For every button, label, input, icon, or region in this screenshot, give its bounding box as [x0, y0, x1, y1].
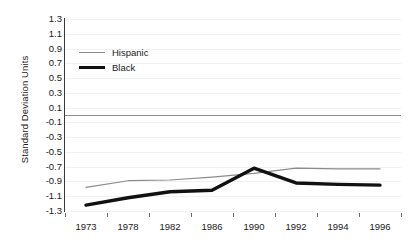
y-tick-label: -0.7 — [22, 162, 62, 172]
x-tick-mark — [359, 213, 360, 217]
x-tick-label: 1994 — [327, 221, 348, 232]
y-tick-label: 0.1 — [22, 103, 62, 113]
y-tick-label: -0.9 — [22, 176, 62, 186]
x-tick-mark — [107, 213, 108, 217]
x-tick-label: 1992 — [285, 221, 306, 232]
gridline — [65, 211, 401, 212]
legend-swatch-hispanic-icon — [79, 52, 105, 53]
legend-swatch-black-icon — [79, 66, 105, 69]
y-tick-label: 0.9 — [22, 44, 62, 54]
x-tick-label: 1986 — [201, 221, 222, 232]
series-line-black — [86, 168, 380, 205]
x-tick-label: 1982 — [159, 221, 180, 232]
y-tick-label: -1.3 — [22, 206, 62, 216]
y-tick-label: -0.3 — [22, 132, 62, 142]
x-tick-mark — [191, 213, 192, 217]
legend-label-black: Black — [112, 62, 135, 73]
y-tick-label: 0.5 — [22, 73, 62, 83]
y-tick-label: -0.5 — [22, 147, 62, 157]
x-axis-tick-labels: 19731978198219861990199219941996 — [0, 221, 409, 243]
x-tick-label: 1996 — [369, 221, 390, 232]
y-tick-label: 1.3 — [22, 14, 62, 24]
x-axis-ticks — [65, 213, 401, 219]
line-chart: Standard Deviation Units 1.31.10.90.70.5… — [0, 0, 409, 250]
y-tick-label: 1.1 — [22, 29, 62, 39]
x-tick-label: 1973 — [75, 221, 96, 232]
y-tick-label: 0.3 — [22, 88, 62, 98]
x-tick-label: 1978 — [117, 221, 138, 232]
y-tick-label: -0.1 — [22, 117, 62, 127]
legend-item-black: Black — [79, 60, 148, 75]
x-tick-mark — [65, 213, 66, 217]
legend: Hispanic Black — [79, 45, 148, 75]
y-axis-tick-labels: 1.31.10.90.70.50.30.1-0.1-0.3-0.5-0.7-0.… — [18, 0, 62, 250]
legend-label-hispanic: Hispanic — [112, 47, 148, 58]
x-tick-mark — [401, 213, 402, 217]
x-tick-mark — [149, 213, 150, 217]
y-tick-label: 0.7 — [22, 58, 62, 68]
x-tick-mark — [233, 213, 234, 217]
x-tick-mark — [275, 213, 276, 217]
y-tick-label: -1.1 — [22, 191, 62, 201]
legend-item-hispanic: Hispanic — [79, 45, 148, 60]
x-tick-label: 1990 — [243, 221, 264, 232]
x-tick-mark — [317, 213, 318, 217]
